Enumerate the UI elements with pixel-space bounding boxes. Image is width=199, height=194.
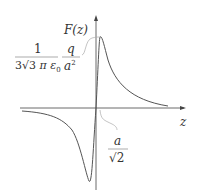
peak-leader-line — [82, 37, 100, 55]
x-axis-arrow-icon — [180, 106, 186, 110]
y-axis-label: F(z) — [64, 24, 88, 36]
coef-denominator: 3√3 π ε0 — [15, 60, 61, 74]
y-axis-arrow-icon — [94, 15, 98, 21]
coef-numerator: 1 — [34, 43, 42, 55]
a-squared-denominator: a2 — [64, 60, 76, 72]
q-numerator: q — [67, 43, 75, 55]
plot-canvas — [0, 0, 199, 194]
x-axis-label: z — [180, 116, 186, 128]
position-numerator: a — [114, 135, 121, 147]
position-denominator: √2 — [109, 152, 124, 164]
position-leader-line — [100, 110, 117, 130]
